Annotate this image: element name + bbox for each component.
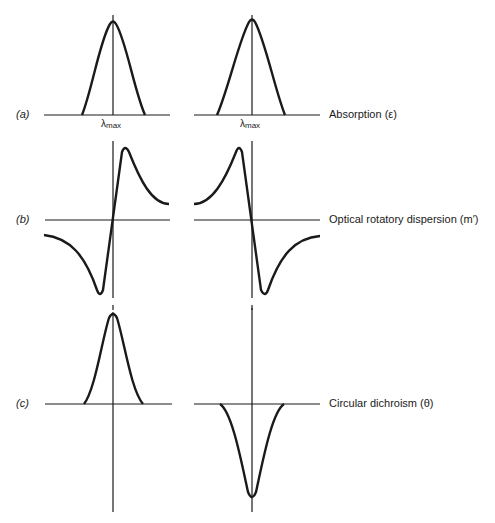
row-label-b: (b) bbox=[16, 213, 29, 225]
lambda-max-left: λmax bbox=[101, 118, 121, 129]
curve-b-left bbox=[44, 148, 169, 294]
curve-b-right bbox=[194, 148, 320, 294]
row-label-c: (c) bbox=[16, 397, 29, 409]
cotton-effect-diagram bbox=[0, 0, 495, 523]
cd-label: Circular dichroism (θ) bbox=[329, 397, 434, 409]
ord-label: Optical rotatory dispersion (m′) bbox=[329, 213, 478, 225]
absorption-label: Absorption (ε) bbox=[329, 108, 397, 120]
row-label-a: (a) bbox=[16, 108, 29, 120]
curve-a-right bbox=[217, 20, 285, 116]
lambda-max-right: λmax bbox=[240, 118, 260, 129]
